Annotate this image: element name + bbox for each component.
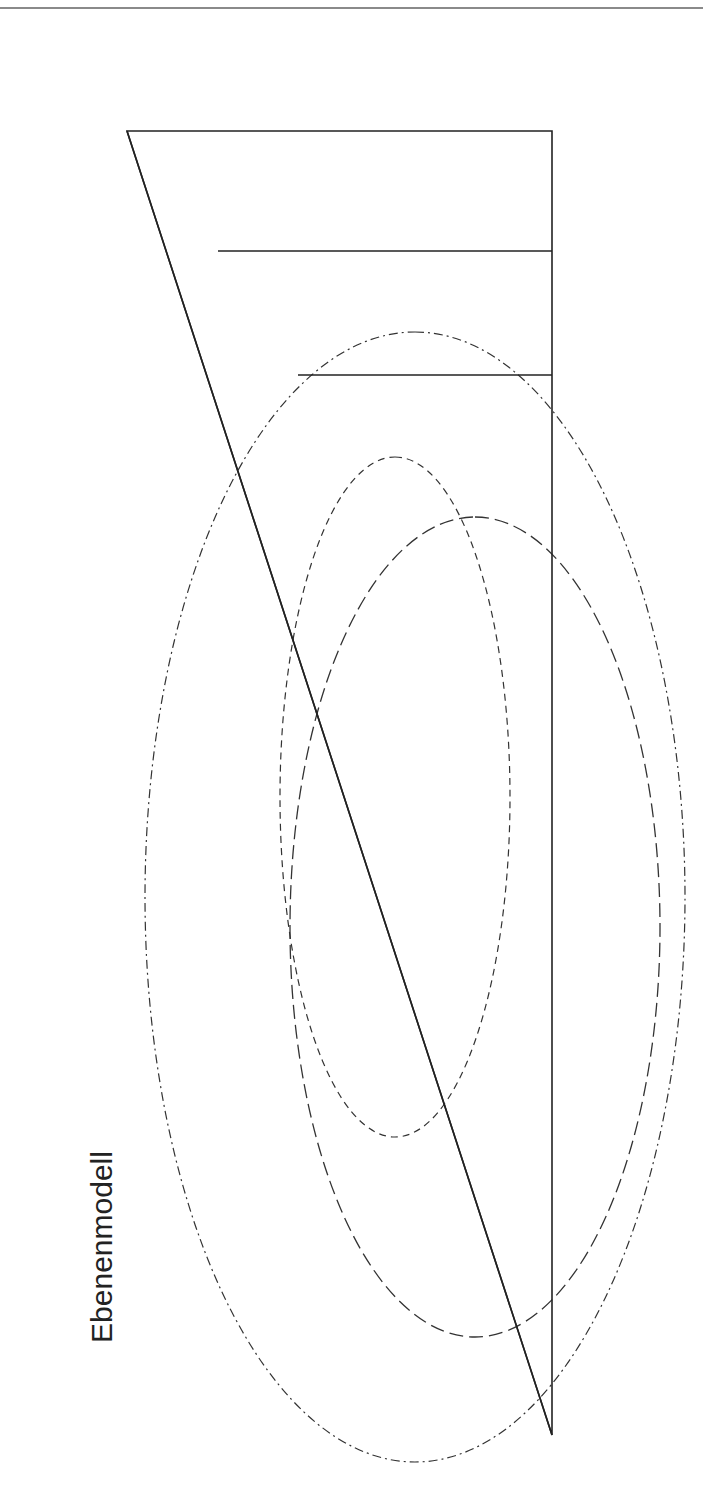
- rotated-page: Ebenenmodell: [0, 0, 703, 1497]
- pyramid-top-edge: [127, 131, 552, 1435]
- diagram-title: Ebenenmodell: [85, 1151, 118, 1343]
- ellipse-produktionsleittechnik: [145, 332, 685, 1462]
- ebenenmodell-diagram: Ebenenmodell: [0, 0, 703, 1497]
- ellipse-plt: [290, 517, 660, 1337]
- ellipse-pls: [280, 457, 510, 1137]
